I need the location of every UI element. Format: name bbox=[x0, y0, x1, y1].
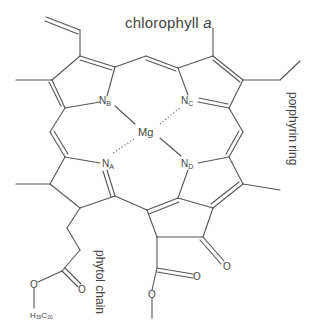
ring-d bbox=[178, 157, 280, 208]
meso-bridge-top bbox=[115, 56, 146, 67]
phytyl-group-label: H39C20 bbox=[30, 311, 53, 320]
nc-atom: NC bbox=[181, 95, 193, 107]
nb-atom: NB bbox=[99, 95, 111, 107]
ester-carbonyl-oxygen: O bbox=[193, 271, 201, 282]
chlorophyll-structure: Mg NB NC NA ND O O O O O H39C20 bbox=[0, 0, 312, 328]
phytyl-ester-oxygen: O bbox=[30, 279, 38, 290]
ring-c bbox=[178, 28, 300, 108]
mg-atom: Mg bbox=[138, 126, 153, 138]
ring-e bbox=[115, 196, 224, 318]
propionate-chain bbox=[34, 208, 81, 308]
phytyl-carbonyl-oxygen: O bbox=[78, 284, 86, 295]
nd-atom: ND bbox=[181, 158, 193, 170]
ketone-oxygen: O bbox=[223, 261, 231, 272]
ester-oxygen: O bbox=[148, 289, 156, 300]
ring-a bbox=[16, 157, 115, 208]
na-atom: NA bbox=[102, 158, 114, 170]
